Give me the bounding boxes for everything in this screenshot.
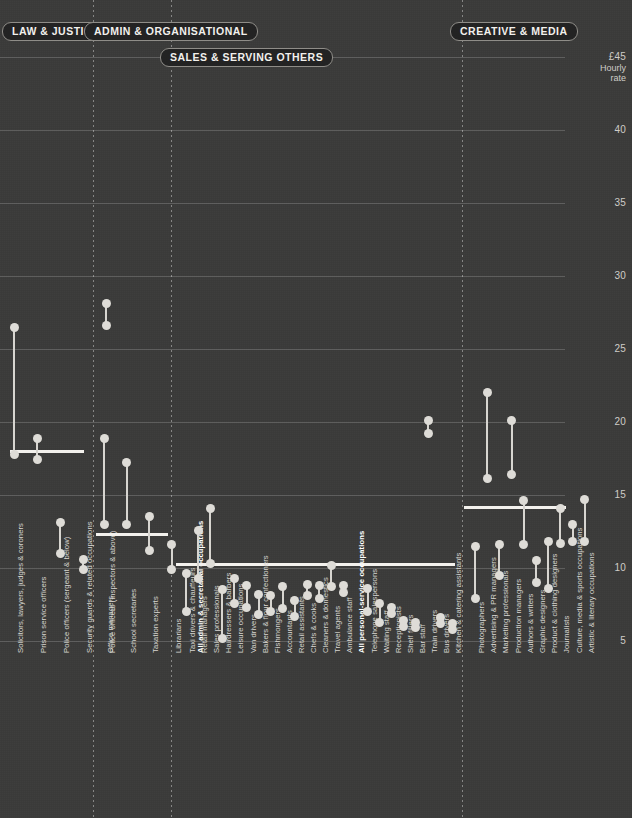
y-axis-tick-25: 25 [614, 343, 626, 354]
category-label: Retail assistants [298, 596, 306, 653]
dumbbell-stem [103, 438, 105, 524]
category-label: Product & clothing designers [551, 554, 559, 653]
dumbbell-stem [185, 574, 187, 612]
group-pill-creative[interactable]: CREATIVE & MEDIA [450, 22, 578, 41]
dumbbell-dot-high[interactable] [102, 299, 111, 308]
category-label: Retail managers [201, 596, 209, 653]
category-label: Police officers (sergeant & below) [63, 537, 71, 653]
group-average-line-creative [464, 506, 566, 509]
dumbbell-dot-high[interactable] [471, 542, 480, 551]
dumbbell-dot-low[interactable] [556, 539, 565, 548]
hourly-rate-dumbbell-chart: £45Hourlyrate403530252015105LAW & JUSTIC… [0, 0, 632, 818]
dumbbell-dot-low[interactable] [424, 429, 433, 438]
dumbbell-dot-low[interactable] [242, 603, 251, 612]
category-label: Photographers [478, 602, 486, 653]
dumbbell-dot-high[interactable] [495, 540, 504, 549]
dumbbell-dot-high[interactable] [10, 323, 19, 332]
category-label: Chefs & cooks [310, 603, 318, 653]
y-axis-tick-35: 35 [614, 197, 626, 208]
dumbbell-dot-high[interactable] [580, 495, 589, 504]
gridline-15 [0, 495, 565, 496]
y-axis-top-label: £45 [609, 51, 626, 62]
dumbbell-stem [197, 530, 199, 578]
dumbbell-dot-high[interactable] [100, 434, 109, 443]
dumbbell-dot-high[interactable] [544, 537, 553, 546]
dumbbell-dot-low[interactable] [339, 588, 348, 597]
dumbbell-dot-low[interactable] [167, 565, 176, 574]
dumbbell-dot-high[interactable] [33, 434, 42, 443]
dumbbell-dot-high[interactable] [266, 591, 275, 600]
dumbbell-dot-high[interactable] [375, 599, 384, 608]
dumbbell-dot-low[interactable] [507, 470, 516, 479]
y-axis-tick-10: 10 [614, 562, 626, 573]
dumbbell-stem [126, 463, 128, 524]
dumbbell-dot-high[interactable] [327, 561, 336, 570]
dumbbell-dot-high[interactable] [519, 496, 528, 505]
category-label: Journalists [563, 616, 571, 653]
dumbbell-dot-high[interactable] [167, 540, 176, 549]
dumbbell-dot-low[interactable] [532, 578, 541, 587]
dumbbell-dot-high[interactable] [122, 458, 131, 467]
dumbbell-dot-high[interactable] [278, 582, 287, 591]
gridline-20 [0, 422, 565, 423]
dumbbell-dot-high[interactable] [194, 526, 203, 535]
gridline-40 [0, 130, 565, 131]
category-label: Solicitors, lawyers, judges & coroners [17, 523, 25, 653]
dumbbell-dot-low[interactable] [206, 559, 215, 568]
gridline-25 [0, 349, 565, 350]
group-pill-sales[interactable]: SALES & SERVING OTHERS [160, 48, 333, 67]
dumbbell-dot-low[interactable] [303, 591, 312, 600]
dumbbell-dot-high[interactable] [230, 574, 239, 583]
group-average-line-sales [176, 563, 455, 566]
dumbbell-dot-high[interactable] [206, 504, 215, 513]
category-label: Travel agents [334, 606, 342, 653]
dumbbell-dot-low[interactable] [100, 520, 109, 529]
group-pill-admin[interactable]: ADMIN & ORGANISATIONAL [84, 22, 258, 41]
y-axis-tick-5: 5 [620, 635, 626, 646]
dumbbell-dot-high[interactable] [424, 416, 433, 425]
dumbbell-dot-low[interactable] [327, 582, 336, 591]
category-label: Fishmongers [274, 608, 282, 653]
dumbbell-dot-low[interactable] [483, 474, 492, 483]
category-label: Production managers [515, 579, 523, 653]
category-label: Office managers [107, 596, 115, 653]
dumbbell-dot-low[interactable] [102, 321, 111, 330]
category-label: Bakers & flour confectioners [262, 555, 270, 653]
dumbbell-dot-low[interactable] [33, 455, 42, 464]
dumbbell-dot-low[interactable] [122, 520, 131, 529]
y-axis-tick-15: 15 [614, 489, 626, 500]
y-axis-caption: Hourlyrate [600, 63, 626, 83]
dumbbell-stem [511, 421, 513, 475]
category-label: Prison service officers [40, 577, 48, 653]
dumbbell-dot-low[interactable] [145, 546, 154, 555]
dumbbell-stem [559, 508, 561, 543]
dumbbell-dot-high[interactable] [56, 518, 65, 527]
category-label: Hairdressers & barbers [225, 573, 233, 653]
dumbbell-dot-high[interactable] [507, 416, 516, 425]
dumbbell-dot-high[interactable] [483, 388, 492, 397]
dumbbell-dot-high[interactable] [532, 556, 541, 565]
dumbbell-stem [474, 546, 476, 599]
category-label: Artistic & literary occupations [588, 552, 596, 653]
dumbbell-stem [523, 501, 525, 545]
y-axis-tick-20: 20 [614, 416, 626, 427]
dumbbell-stem [209, 508, 211, 563]
dumbbell-dot-low[interactable] [580, 537, 589, 546]
category-label: Taxation experts [152, 596, 160, 653]
category-label: Bar staff [419, 624, 427, 653]
dumbbell-dot-high[interactable] [556, 504, 565, 513]
dumbbell-stem [547, 542, 549, 589]
dumbbell-dot-high[interactable] [242, 581, 251, 590]
category-label: Sales professionals [213, 585, 221, 653]
dumbbell-dot-low[interactable] [10, 450, 19, 459]
category-label: Telephone salespersons [371, 569, 379, 653]
dumbbell-dot-low[interactable] [519, 540, 528, 549]
category-label: Graphic designers [539, 590, 547, 653]
dumbbell-dot-high[interactable] [303, 580, 312, 589]
gridline-30 [0, 276, 565, 277]
dumbbell-dot-low[interactable] [194, 574, 203, 583]
dumbbell-stem [486, 393, 488, 479]
dumbbell-dot-high[interactable] [145, 512, 154, 521]
category-label: Marketing professionals [502, 571, 510, 654]
y-axis-tick-30: 30 [614, 270, 626, 281]
